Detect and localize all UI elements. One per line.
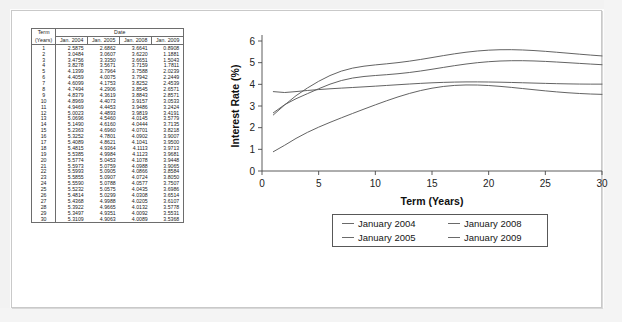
y-tick-label: 5 <box>249 57 255 68</box>
legend-item-january-2008[interactable]: January 2008 <box>441 218 545 229</box>
table-header-term: Term <box>32 29 56 37</box>
table-header-col-0: Jan. 2004 <box>56 37 88 45</box>
page-root: Term Date (Years) Jan. 2004 Jan. 2005 Ja… <box>0 0 622 322</box>
interest-rate-table: Term Date (Years) Jan. 2004 Jan. 2005 Ja… <box>31 28 184 223</box>
table-cell-value: 4.9063 <box>88 216 120 222</box>
series-line-january-2009 <box>273 85 602 152</box>
legend-line-swatch-icon <box>448 237 460 238</box>
page-edge-bottom <box>0 308 622 322</box>
x-tick-label: 10 <box>370 178 382 189</box>
table-header-term-units: (Years) <box>32 37 56 45</box>
x-tick-label: 25 <box>540 178 552 189</box>
legend-grid: January 2004 January 2008 January 2005 J… <box>335 218 545 243</box>
y-tick-label: 4 <box>249 79 255 90</box>
page-edge-top <box>0 0 622 9</box>
legend-label: January 2008 <box>464 218 522 229</box>
legend-item-january-2004[interactable]: January 2004 <box>335 218 439 229</box>
content-panel: Term Date (Years) Jan. 2004 Jan. 2005 Ja… <box>11 10 602 308</box>
table-cell-value: 4.0089 <box>120 216 152 222</box>
table-header-col-3: Jan. 2009 <box>152 37 184 45</box>
x-tick-label: 0 <box>259 178 265 189</box>
x-tick-label: 15 <box>426 178 438 189</box>
legend-label: January 2005 <box>358 232 416 243</box>
legend-item-january-2005[interactable]: January 2005 <box>335 232 439 243</box>
chart-axes <box>258 35 602 175</box>
table-cell-term: 30 <box>32 216 56 222</box>
x-tick-label: 20 <box>483 178 495 189</box>
y-axis-title: Interest Rate (%) <box>229 65 241 148</box>
x-axis-title: Term (Years) <box>401 195 464 207</box>
interest-rate-chart: 0123456051015202530Term (Years)Interest … <box>226 25 608 305</box>
y-tick-label: 1 <box>249 144 255 155</box>
table-row: 305.31094.90634.00893.5368 <box>32 216 184 222</box>
y-tick-label: 2 <box>249 122 255 133</box>
chart-series <box>273 50 602 152</box>
table-header-date-group: Date <box>56 29 184 37</box>
legend-item-january-2009[interactable]: January 2009 <box>441 232 545 243</box>
legend-line-swatch-icon <box>342 223 354 224</box>
x-tick-label: 5 <box>316 178 322 189</box>
legend-line-swatch-icon <box>448 223 460 224</box>
table-head: Term Date (Years) Jan. 2004 Jan. 2005 Ja… <box>32 29 184 45</box>
x-tick-label: 30 <box>596 178 608 189</box>
table-cell-value: 5.3109 <box>56 216 88 222</box>
table-header-col-2: Jan. 2008 <box>120 37 152 45</box>
legend-label: January 2009 <box>464 232 522 243</box>
table-body: 12.58752.68623.66410.890823.04843.06073.… <box>32 45 184 223</box>
series-line-january-2005 <box>273 61 602 113</box>
table-cell-value: 3.5368 <box>152 216 184 222</box>
legend-line-swatch-icon <box>342 237 354 238</box>
legend-label: January 2004 <box>358 218 416 229</box>
table-header-col-1: Jan. 2005 <box>88 37 120 45</box>
y-tick-label: 0 <box>249 166 255 177</box>
table-head-row-2: (Years) Jan. 2004 Jan. 2005 Jan. 2008 Ja… <box>32 37 184 45</box>
y-tick-label: 6 <box>249 36 255 47</box>
chart-legend: January 2004 January 2008 January 2005 J… <box>332 214 548 247</box>
y-tick-label: 3 <box>249 101 255 112</box>
table-head-row-1: Term Date <box>32 29 184 37</box>
interest-rate-table-container: Term Date (Years) Jan. 2004 Jan. 2005 Ja… <box>31 28 184 223</box>
page-edge-left <box>0 0 10 322</box>
chart-svg: 0123456051015202530Term (Years)Interest … <box>226 25 608 225</box>
